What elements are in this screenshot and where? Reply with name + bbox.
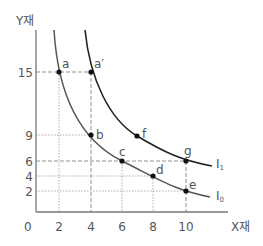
y-axis-title: Y재 xyxy=(15,14,34,28)
x-tick-10: 10 xyxy=(178,220,193,234)
indifference-curve-chart: a a′ b c d e f g I1 I0 Y재 X재 0 15 9 6 4 … xyxy=(0,0,263,246)
data-points xyxy=(56,69,188,193)
label-e: e xyxy=(189,178,196,192)
x-tick-6: 6 xyxy=(118,220,126,234)
point-a xyxy=(56,69,61,74)
point-f xyxy=(134,133,139,138)
point-e xyxy=(183,188,188,193)
y-tick-6: 6 xyxy=(25,155,33,169)
x-axis-title: X재 xyxy=(231,220,250,234)
label-f: f xyxy=(142,127,147,141)
y-tick-4: 4 xyxy=(25,170,33,184)
origin-label: 0 xyxy=(24,220,32,234)
label-a-prime: a′ xyxy=(94,57,104,71)
curve-label-i1: I1 xyxy=(216,157,224,172)
point-d xyxy=(150,173,155,178)
curve-i1 xyxy=(85,30,212,166)
x-tick-2: 2 xyxy=(55,220,63,234)
point-g xyxy=(183,158,188,163)
label-c: c xyxy=(119,145,126,159)
label-a: a xyxy=(62,57,69,71)
point-b xyxy=(88,132,93,137)
guide-lines xyxy=(36,72,186,212)
curve-label-i0: I0 xyxy=(216,189,224,204)
curve-i0 xyxy=(54,30,210,197)
y-tick-2: 2 xyxy=(25,185,33,199)
x-tick-4: 4 xyxy=(87,220,95,234)
point-a-prime xyxy=(88,69,93,74)
y-tick-9: 9 xyxy=(25,129,33,143)
y-tick-15: 15 xyxy=(18,66,33,80)
label-g: g xyxy=(184,144,192,158)
point-c xyxy=(119,158,124,163)
x-tick-8: 8 xyxy=(149,220,157,234)
label-b: b xyxy=(96,128,104,142)
label-d: d xyxy=(156,163,164,177)
